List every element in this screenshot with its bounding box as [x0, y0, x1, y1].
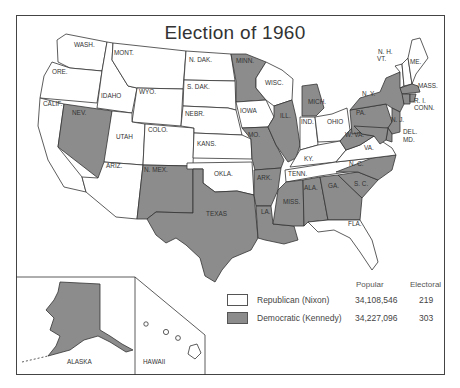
state-alaska [46, 282, 133, 356]
label-utah: UTAH [116, 133, 133, 140]
label-wva: W. VA. [345, 131, 364, 138]
state-fla [308, 220, 378, 270]
label-nh: N. H. [378, 48, 393, 55]
state-hawaii-oahu [163, 329, 168, 334]
label-va: VA. [364, 144, 374, 151]
label-sdak: S. DAK. [187, 83, 210, 90]
label-ky: KY. [304, 155, 314, 162]
label-sc: S. C. [354, 180, 368, 187]
label-nc: N. C. [349, 160, 364, 167]
legend-electoral-vote: 303 [419, 313, 433, 323]
legend-party: Democratic (Kennedy) [257, 313, 342, 323]
label-mich: MICH. [308, 98, 326, 105]
legend-popular-vote: 34,108,546 [355, 295, 398, 305]
label-iowa: IOWA [240, 107, 258, 114]
state-hawaii-kauai [144, 322, 148, 326]
label-tenn: TENN. [288, 170, 307, 177]
legend-electoral-vote: 219 [419, 295, 433, 305]
label-minn: MINN. [236, 57, 254, 64]
label-mo: MO. [248, 131, 260, 138]
label-kans: KANS. [197, 140, 216, 147]
label-la: LA. [261, 208, 271, 215]
label-vt: VT. [377, 55, 386, 62]
label-miss: MISS. [283, 198, 301, 205]
label-del: DEL. [403, 128, 417, 135]
label-ind: IND. [301, 118, 314, 125]
label-fla: FLA. [348, 220, 362, 227]
state-hawaii-big-island [188, 344, 201, 359]
label-idaho: IDAHO [101, 92, 121, 99]
map-title: Election of 1960 [0, 22, 460, 44]
alaska-aleutians [22, 356, 48, 362]
label-mont: MONT. [114, 49, 134, 56]
label-nmex: N. MEX. [144, 166, 168, 173]
label-alaska: ALASKA [67, 358, 93, 365]
legend-header-electoral: Electoral [410, 280, 441, 289]
legend-row-democratic: Democratic (Kennedy) 34,227,096 303 [224, 312, 444, 328]
label-ri: R. I. [414, 97, 426, 104]
label-ore: ORE. [52, 68, 68, 75]
label-ala: ALA. [304, 184, 318, 191]
label-ga: GA. [328, 182, 339, 189]
us-election-map: WASH. ORE. CALIF. IDAHO NEV. MONT. WYO. … [0, 0, 460, 388]
republican-swatch [227, 294, 248, 306]
legend-row-republican: Republican (Nixon) 34,108,546 219 [224, 294, 444, 310]
label-colo: COLO. [148, 126, 168, 133]
democratic-swatch [227, 312, 248, 324]
state-nmex [137, 165, 193, 219]
label-conn: CONN. [414, 104, 435, 111]
state-iowa [236, 100, 274, 128]
label-pa: PA. [356, 109, 366, 116]
label-mass: MASS. [418, 82, 438, 89]
label-okla: OKLA. [214, 170, 233, 177]
label-me: ME. [410, 58, 422, 65]
label-wisc: WISC. [265, 79, 284, 86]
label-ny: N. Y. [362, 90, 375, 97]
label-hawaii: HAWAII [143, 358, 165, 365]
label-nev: NEV. [72, 109, 87, 116]
label-texas: TEXAS [206, 210, 227, 217]
label-nj: N. J. [391, 116, 404, 123]
label-calif: CALIF. [43, 100, 62, 107]
label-md: MD. [403, 136, 415, 143]
label-wyo: WYO. [139, 88, 156, 95]
label-nebr: NEBR. [185, 110, 205, 117]
label-ill: ILL. [280, 112, 291, 119]
state-hawaii-maui [176, 336, 181, 341]
label-ohio: OHIO [327, 118, 343, 125]
label-ariz: ARIZ. [106, 162, 123, 169]
label-ark: ARK. [257, 174, 272, 181]
legend-party: Republican (Nixon) [257, 295, 329, 305]
legend-popular-vote: 34,227,096 [355, 313, 398, 323]
label-ndak: N. DAK. [189, 56, 212, 63]
legend-header-popular: Popular [356, 280, 384, 289]
